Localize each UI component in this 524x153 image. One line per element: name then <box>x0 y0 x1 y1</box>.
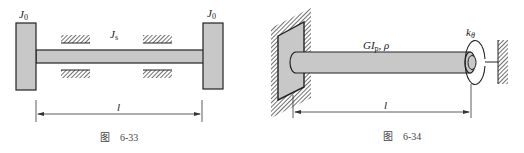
length-dimension: l <box>36 100 202 122</box>
right-disk-label: J0 <box>207 7 216 21</box>
shaft-inertia-label: Js <box>110 28 118 42</box>
figure-6-33: J0 J0 Js l 图6-33 <box>16 7 223 143</box>
shaft-property-label: GIp, ρ <box>363 39 389 53</box>
figure-caption: 图6-34 <box>383 131 421 142</box>
right-disk <box>203 23 223 89</box>
shaft <box>36 50 204 63</box>
length-label: l <box>384 99 387 111</box>
left-disk <box>16 23 36 90</box>
right-ground <box>498 40 508 84</box>
left-disk-label: J0 <box>19 8 28 22</box>
length-label: l <box>117 101 120 113</box>
spring-stiffness-label: kθ <box>466 26 475 40</box>
figure-caption: 图6-33 <box>100 132 138 143</box>
length-dimension: l <box>293 84 471 118</box>
figure-6-34: GIp, ρ kθ l 图6-34 <box>271 8 508 142</box>
shaft <box>290 52 470 73</box>
